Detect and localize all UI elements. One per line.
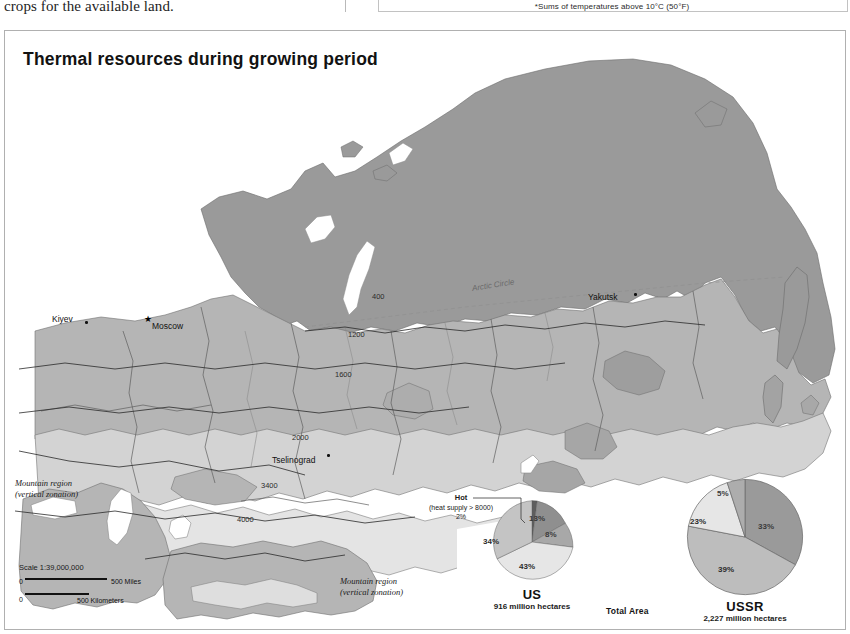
pie-chart-ussr-title: USSR	[665, 599, 825, 614]
scale-miles-zero: 0	[19, 578, 23, 585]
mountain-region-annotation-west: Mountain region (vertical zonation)	[15, 478, 78, 499]
pie-label-us-8: 8%	[545, 530, 557, 539]
scale-km-label: 500 Kilometers	[77, 597, 124, 604]
pie-chart-ussr: USSR 2,227 million hectares 33% 39% 23% …	[665, 477, 825, 623]
pie-label-ussr-5: 5%	[717, 489, 729, 498]
pie-annotation-us-hot-value: 2%	[456, 513, 466, 520]
column-divider	[345, 0, 346, 12]
isoline-label-400: 400	[372, 292, 385, 301]
isoline-label-4000: 4000	[237, 515, 254, 524]
city-label-moscow: Moscow	[152, 321, 183, 331]
pie-annotation-us-hot-title: Hot	[455, 493, 468, 502]
pie-label-ussr-23: 23%	[690, 517, 706, 526]
mountain-region-line1b: Mountain region	[340, 576, 397, 586]
city-marker-kiyev	[85, 321, 88, 324]
article-body-text: crops for the available land.	[4, 0, 324, 15]
pie-annotation-us-hot: Hot (heat supply > 8000) 2%	[429, 493, 493, 521]
map-figure: Thermal resources during growing period …	[4, 30, 846, 630]
isoline-label-1200: 1200	[348, 330, 365, 339]
page-title: Thermal resources during growing period	[23, 49, 378, 70]
pie-chart-us-title: US	[467, 587, 597, 602]
mountain-region-line1: Mountain region	[15, 478, 72, 488]
city-label-kiyev: Kiyev	[52, 314, 73, 324]
pie-label-us-43: 43%	[519, 562, 535, 571]
scale-ratio-label: Scale 1:39,000,000	[19, 563, 169, 572]
city-marker-tselinograd	[327, 454, 330, 457]
capital-marker-moscow: ★	[144, 315, 152, 324]
pie-chart-us-subtitle: 916 million hectares	[467, 602, 597, 611]
scale-miles-bar	[25, 578, 107, 580]
pie-chart-ussr-svg	[685, 477, 805, 597]
legend-footnote: *Sums of temperatures above 10°C (50°F)	[378, 2, 846, 11]
city-label-yakutsk: Yakutsk	[588, 292, 618, 302]
isoline-label-3400: 3400	[261, 481, 278, 490]
pie-label-ussr-39: 39%	[718, 565, 734, 574]
city-marker-yakutsk	[634, 293, 637, 296]
charts-center-label: Total Area	[606, 606, 649, 616]
isoline-label-2000: 2000	[292, 433, 309, 442]
pie-label-us-34: 34%	[483, 537, 499, 546]
pie-label-ussr-33: 33%	[758, 522, 774, 531]
city-label-tselinograd: Tselinograd	[272, 455, 315, 465]
scale-bar: Scale 1:39,000,000 0 500 Miles 0 500 Kil…	[19, 563, 169, 605]
mountain-region-line2: (vertical zonation)	[15, 489, 78, 499]
isoline-label-1600: 1600	[335, 370, 352, 379]
pie-annotation-us-hot-detail: (heat supply > 8000)	[429, 504, 493, 511]
pie-chart-us-svg	[489, 499, 575, 585]
mountain-region-line2b: (vertical zonation)	[340, 587, 403, 597]
pie-chart-ussr-subtitle: 2,227 million hectares	[665, 614, 825, 623]
scale-km-zero: 0	[19, 596, 23, 603]
scale-km-bar	[25, 593, 89, 595]
scale-miles-label: 500 Miles	[111, 578, 141, 585]
scale-km-row: 0 500 Kilometers	[19, 593, 169, 605]
scale-miles-row: 0 500 Miles	[19, 575, 169, 587]
pie-label-us-13: 13%	[529, 514, 545, 523]
page-top-strip: crops for the available land. *Sums of t…	[0, 0, 850, 26]
mountain-region-annotation-south: Mountain region (vertical zonation)	[340, 576, 403, 597]
